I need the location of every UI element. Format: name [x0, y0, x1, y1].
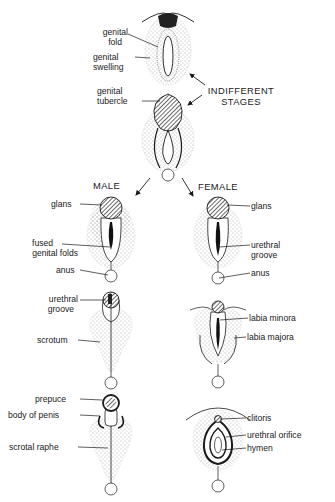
label-labia-majora: labia majora	[247, 332, 294, 342]
indifferent-arrow-up	[190, 74, 205, 85]
heading-line: STAGES	[204, 96, 278, 107]
label-female-urethral-groove: urethral groove	[251, 240, 280, 260]
label-line: groove	[251, 250, 280, 260]
label-line: urethral	[36, 294, 78, 304]
female-stage-1-drawing	[194, 197, 242, 284]
label-male-anus: anus	[56, 265, 75, 275]
male-stage-3-drawing	[90, 395, 132, 495]
heading-female: FEMALE	[198, 181, 238, 192]
heading-male: MALE	[93, 180, 120, 191]
heading-line: INDIFFERENT	[204, 85, 278, 96]
male-stage-1-drawing	[87, 197, 135, 282]
label-line: fold	[90, 37, 128, 47]
indifferent-arrow-down	[188, 95, 202, 105]
male-stage-2-drawing	[90, 292, 132, 389]
label-male-glans: glans	[51, 199, 72, 209]
female-stage-3-drawing	[186, 408, 250, 492]
label-clitoris: clitoris	[247, 413, 271, 423]
label-line: swelling	[93, 62, 124, 72]
male-branch-arrow	[136, 178, 150, 195]
label-genital-swelling: genital swelling	[93, 52, 124, 72]
label-fused-genital-folds: fused genital folds	[14, 238, 78, 258]
label-line: fused	[14, 238, 78, 248]
label-line: urethral	[251, 240, 280, 250]
label-line: tubercle	[97, 96, 128, 106]
female-branch-arrow	[182, 178, 193, 196]
label-line: groove	[36, 304, 78, 314]
indifferent-stage-1-drawing	[142, 13, 194, 85]
indifferent-stage-2-drawing	[142, 94, 194, 181]
label-male-urethral-groove: urethral groove	[36, 294, 78, 314]
label-genital-fold: genital fold	[90, 27, 128, 47]
label-labia-minora: labia minora	[249, 313, 296, 323]
label-hymen: hymen	[247, 443, 273, 453]
heading-indifferent-stages: INDIFFERENT STAGES	[204, 85, 278, 107]
label-female-anus: anus	[251, 268, 270, 278]
label-scrotal-raphe: scrotal raphe	[9, 442, 59, 452]
label-line: genital	[93, 52, 124, 62]
label-line: genital folds	[14, 248, 78, 258]
label-genital-tubercle: genital tubercle	[97, 86, 128, 106]
label-prepuce: prepuce	[35, 394, 66, 404]
label-scrotum: scrotum	[37, 335, 68, 345]
label-female-glans: glans	[251, 201, 272, 211]
female-stage-2-drawing	[190, 301, 246, 388]
label-urethral-orifice: urethral orifice	[247, 430, 301, 440]
label-body-of-penis: body of penis	[8, 410, 59, 420]
label-line: genital	[97, 86, 128, 96]
label-line: genital	[90, 27, 128, 37]
